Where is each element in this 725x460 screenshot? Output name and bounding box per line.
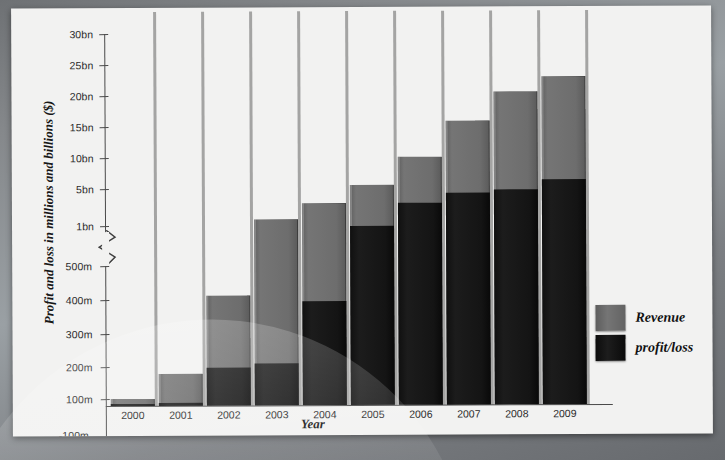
bar-revenue-segment [254, 219, 299, 405]
x-tick-label-2007: 2007 [447, 407, 491, 419]
y-tick [101, 399, 110, 400]
axis-break-mask [102, 232, 109, 266]
y-tick-label: 5bn [46, 183, 94, 195]
x-tick-label-2002: 2002 [207, 408, 251, 420]
bar-profitloss-segment [207, 367, 251, 405]
y-tick [100, 189, 109, 190]
y-tick [99, 34, 108, 35]
y-tick-label: -100m [41, 429, 89, 436]
bar-highlight [206, 296, 208, 406]
bar-highlight [254, 219, 257, 405]
y-tick-label: 15bn [46, 121, 94, 133]
bar-2005[interactable] [349, 7, 395, 405]
bar-2008[interactable] [493, 6, 539, 404]
bar-2002[interactable] [205, 7, 251, 405]
legend-label-revenue: Revenue [635, 310, 685, 326]
x-tick-label-2006: 2006 [399, 408, 443, 420]
bar-2001[interactable] [157, 8, 203, 406]
y-tick-label: 10bn [46, 152, 94, 164]
bar-profitloss-segment [302, 301, 346, 405]
bar-2000[interactable] [109, 8, 155, 406]
bar-highlight [159, 374, 161, 406]
bar-profitloss-segment [159, 403, 203, 406]
legend-item-profitloss[interactable]: profit/loss [595, 333, 693, 363]
y-tick-label: 20bn [45, 90, 93, 102]
bar-revenue-segment [206, 295, 250, 405]
y-tick [100, 127, 109, 128]
x-tick-label-2001: 2001 [159, 409, 203, 421]
bar-highlight [111, 399, 113, 406]
legend-label-profitloss: profit/loss [636, 340, 694, 356]
x-tick-label-2005: 2005 [351, 408, 395, 420]
bar-revenue-segment [159, 374, 203, 406]
y-tick-label: 400m [44, 294, 92, 306]
legend-swatch-revenue-icon [595, 305, 625, 331]
bar-profitloss-segment [494, 189, 539, 404]
legend-item-revenue[interactable]: Revenue [595, 303, 693, 333]
x-tick-label-2004: 2004 [303, 408, 347, 420]
y-tick-label: 100m [45, 393, 93, 405]
y-tick [100, 226, 109, 227]
bar-2007[interactable] [445, 6, 491, 404]
y-tick-label: 25bn [45, 59, 93, 71]
bar-2003[interactable] [253, 7, 299, 405]
y-tick-label: 200m [45, 361, 93, 373]
bar-revenue-segment [111, 399, 155, 406]
x-tick-label-2000: 2000 [111, 409, 155, 421]
bar-2004[interactable] [301, 7, 347, 405]
bar-profitloss-segment [255, 363, 299, 405]
bar-profitloss-segment [350, 226, 395, 405]
bar-profitloss-segment [542, 179, 587, 404]
y-tick [100, 334, 109, 335]
x-tick-label-2003: 2003 [255, 408, 299, 420]
y-tick [101, 367, 110, 368]
chart-page: Profit and loss in millions and billions… [11, 5, 713, 436]
y-tick-label: 1bn [46, 220, 94, 232]
y-tick-label: 300m [44, 328, 92, 340]
y-tick [99, 65, 108, 66]
y-tick [100, 266, 109, 267]
bar-profitloss-segment [446, 192, 491, 404]
y-tick-label: 500m [44, 260, 92, 272]
bar-profitloss-segment [111, 404, 155, 406]
y-tick [99, 96, 108, 97]
x-tick-label-2008: 2008 [495, 407, 539, 419]
y-tick [100, 300, 109, 301]
bar-chart: Profit and loss in millions and billions… [11, 5, 713, 436]
bar-2006[interactable] [397, 7, 443, 405]
bar-2009[interactable] [541, 6, 587, 404]
y-tick-label: 30bn [45, 28, 93, 40]
x-tick-label-2009: 2009 [543, 407, 587, 419]
bar-shadow [585, 10, 590, 404]
legend-swatch-profitloss-icon [595, 335, 625, 361]
y-tick [100, 158, 109, 159]
photo-frame: Profit and loss in millions and billions… [0, 0, 725, 460]
chart-legend: Revenue profit/loss [595, 303, 693, 363]
bar-profitloss-segment [398, 203, 443, 405]
